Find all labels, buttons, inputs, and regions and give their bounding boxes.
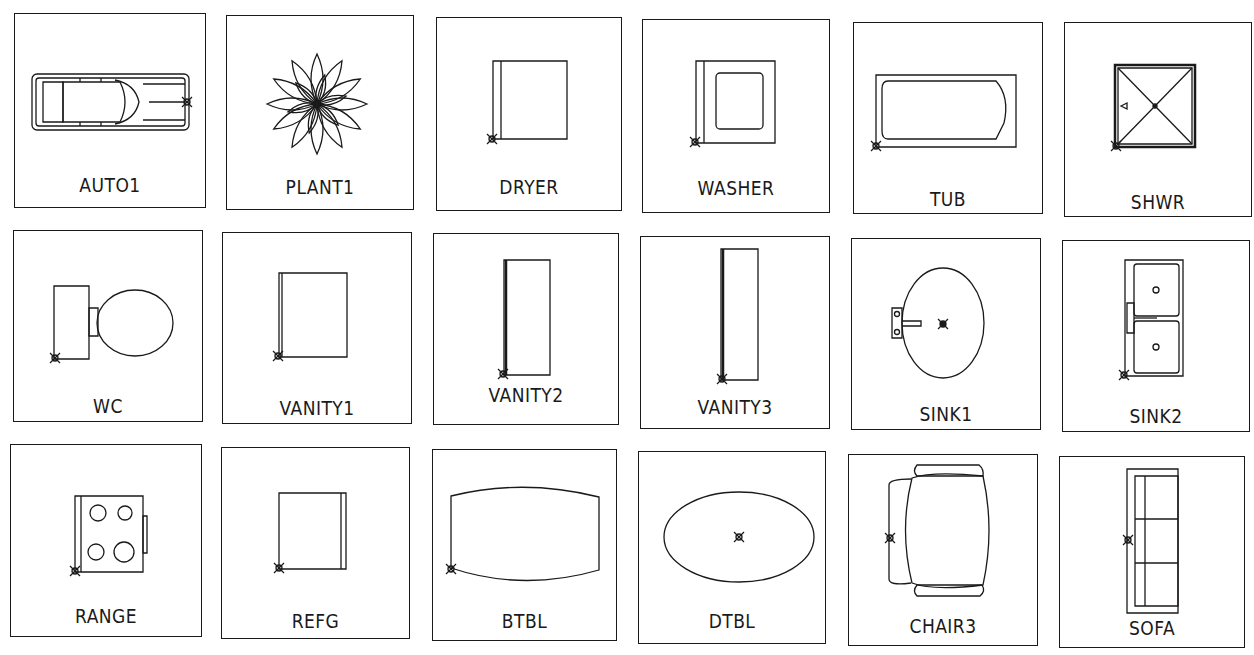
block-tile-plant1[interactable]: PLANT1 bbox=[226, 15, 414, 210]
block-label: WC bbox=[23, 395, 192, 417]
block-tile-washer[interactable]: WASHER bbox=[642, 19, 830, 213]
block-label: VANITY2 bbox=[443, 384, 609, 406]
shower-icon bbox=[1065, 23, 1253, 218]
block-tile-vanity1[interactable]: VANITY1 bbox=[222, 232, 412, 424]
block-tile-shwr[interactable]: SHWR bbox=[1064, 22, 1252, 217]
block-label: RANGE bbox=[21, 605, 192, 627]
block-label: DTBL bbox=[648, 610, 815, 632]
block-tile-chair3[interactable]: CHAIR3 bbox=[848, 454, 1038, 646]
block-tile-dtbl[interactable]: DTBL bbox=[638, 451, 826, 644]
block-label: SHWR bbox=[1074, 191, 1241, 213]
block-tile-refg[interactable]: REFG bbox=[221, 447, 410, 639]
block-tile-sink2[interactable]: SINK2 bbox=[1062, 240, 1250, 432]
block-label: TUB bbox=[863, 188, 1032, 210]
block-label: DRYER bbox=[446, 176, 612, 198]
bathtub-icon bbox=[854, 23, 1044, 215]
block-tile-dryer[interactable]: DRYER bbox=[436, 17, 622, 211]
block-label: VANITY1 bbox=[232, 397, 401, 419]
block-tile-wc[interactable]: WC bbox=[13, 230, 203, 422]
block-label: REFG bbox=[231, 610, 399, 632]
block-label: SINK1 bbox=[861, 403, 1030, 425]
block-label: WASHER bbox=[652, 177, 819, 199]
block-tile-vanity3[interactable]: VANITY3 bbox=[640, 236, 830, 429]
block-tile-vanity2[interactable]: VANITY2 bbox=[433, 233, 619, 425]
block-tile-tub[interactable]: TUB bbox=[853, 22, 1043, 214]
block-tile-range[interactable]: RANGE bbox=[10, 444, 202, 637]
block-label: VANITY3 bbox=[650, 396, 819, 418]
block-label: BTBL bbox=[442, 610, 607, 632]
block-tile-sink1[interactable]: SINK1 bbox=[851, 238, 1041, 430]
block-tile-sofa[interactable]: SOFA bbox=[1059, 456, 1245, 648]
block-label: SOFA bbox=[1069, 617, 1235, 639]
block-label: SINK2 bbox=[1072, 405, 1239, 427]
block-label: PLANT1 bbox=[236, 176, 403, 198]
block-label: CHAIR3 bbox=[858, 615, 1027, 637]
block-tile-btbl[interactable]: BTBL bbox=[432, 449, 617, 641]
block-tile-auto1[interactable]: AUTO1 bbox=[14, 13, 206, 208]
block-label: AUTO1 bbox=[25, 174, 196, 196]
